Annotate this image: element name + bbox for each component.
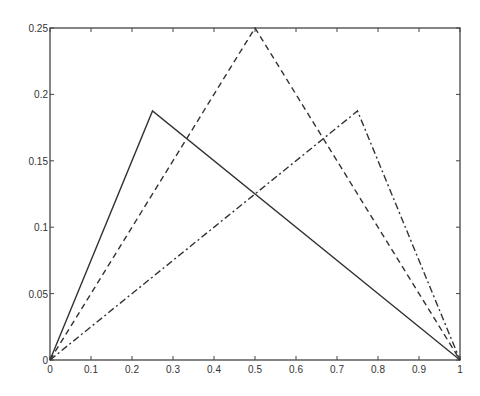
x-tick-label: 0.7 xyxy=(330,364,344,375)
x-tick-label: 1 xyxy=(457,364,463,375)
x-tick-label: 0.1 xyxy=(84,364,98,375)
x-tick-label: 0.5 xyxy=(248,364,262,375)
x-tick-label: 0.8 xyxy=(371,364,385,375)
y-tick-label: 0.15 xyxy=(29,156,49,167)
series-solid xyxy=(50,111,460,360)
y-tick-label: 0.25 xyxy=(29,23,49,34)
x-tick-label: 0.3 xyxy=(166,364,180,375)
chart: 00.10.20.30.40.50.60.70.80.91 00.050.10.… xyxy=(0,0,480,396)
y-tick-label: 0.2 xyxy=(34,89,48,100)
x-tick-label: 0.9 xyxy=(412,364,426,375)
x-axis: 00.10.20.30.40.50.60.70.80.91 xyxy=(47,28,463,375)
series-layer xyxy=(50,28,460,360)
series-dash-dot xyxy=(50,111,460,360)
x-tick-label: 0 xyxy=(47,364,53,375)
x-tick-label: 0.6 xyxy=(289,364,303,375)
y-axis: 00.050.10.150.20.25 xyxy=(29,23,460,366)
y-tick-label: 0.05 xyxy=(29,289,49,300)
x-tick-label: 0.2 xyxy=(125,364,139,375)
y-tick-label: 0.1 xyxy=(34,222,48,233)
y-tick-label: 0 xyxy=(42,355,48,366)
x-tick-label: 0.4 xyxy=(207,364,221,375)
